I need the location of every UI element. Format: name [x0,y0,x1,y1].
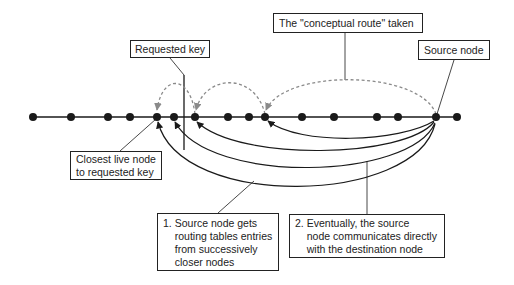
node [104,113,112,121]
node [394,113,402,121]
dashed-hop-3 [157,83,195,114]
step2-text: Eventually, the source node communicates… [307,217,437,255]
leader-closest-node [120,119,156,151]
node [191,113,199,121]
source-node [432,113,440,121]
route-to-node-265 [268,121,434,138]
step1-label: 1. Source node gets routing tables entri… [157,213,279,271]
step2-number: 2. [295,217,304,255]
dashed-hop-1 [266,80,436,114]
node [224,113,232,121]
step1-number: 1. [163,217,172,267]
node [29,113,37,121]
node [453,113,461,121]
step2-label: 2. Eventually, the source node communica… [289,214,445,258]
leader-requested-key [170,58,184,75]
requested-key-label: Requested key [130,40,210,58]
node [170,113,178,121]
node [298,113,306,121]
step1-text: Source node gets routing tables entries … [175,217,272,267]
conceptual-route-arcs [157,80,436,114]
source-node-label: Source node [418,40,490,60]
node [373,113,381,121]
leader-step1 [218,181,254,213]
leader-source-node [437,60,454,114]
node [330,113,338,121]
conceptual-route-label: The "conceptual route" taken [273,13,423,33]
closest-live-node [153,113,161,121]
node [261,113,269,121]
dashed-hop-2 [196,83,265,114]
closest-live-node-label: Closest live node to requested key [70,151,162,180]
node [245,113,253,121]
node [67,113,75,121]
node [126,113,134,121]
routing-table-curves [158,121,435,186]
route-to-node-174 [175,122,435,168]
